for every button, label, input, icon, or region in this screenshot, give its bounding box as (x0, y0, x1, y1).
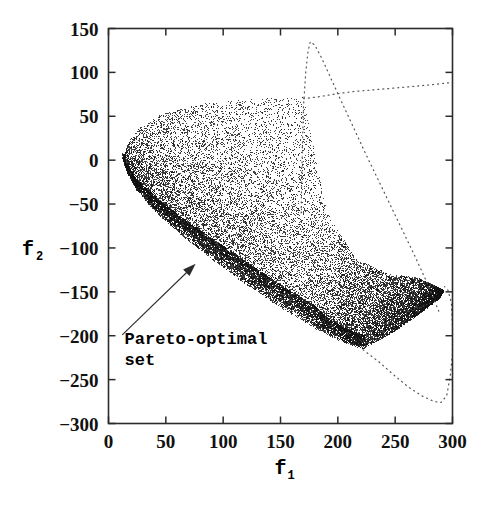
pareto-annotation-line1: Pareto-optimal (125, 330, 268, 349)
y-tick-label: −200 (59, 326, 98, 347)
x-tick-label: 250 (381, 431, 410, 452)
y-tick-label: −150 (59, 282, 98, 303)
x-tick-label: 0 (104, 431, 114, 452)
x-tick-label: 200 (324, 431, 353, 452)
y-tick-label: 150 (70, 19, 99, 40)
svg-text:f: f (275, 457, 287, 480)
y-tick-label: 0 (89, 150, 99, 171)
x-tick-label: 100 (209, 431, 238, 452)
x-tick-label: 50 (156, 431, 175, 452)
x-tick-label: 150 (266, 431, 295, 452)
y-tick-label: −50 (69, 194, 99, 215)
svg-text:f: f (22, 238, 34, 261)
pareto-annotation-line2: set (125, 351, 156, 370)
pareto-front-scatter-figure: 150100500−50−100−150−200−250−300 0501001… (0, 0, 489, 509)
y-tick-label: 50 (80, 106, 99, 127)
x-tick-label: 300 (438, 431, 467, 452)
y-tick-label: −100 (59, 238, 98, 259)
svg-text:2: 2 (36, 250, 43, 264)
y-tick-label: 100 (70, 62, 99, 83)
y-tick-label: −250 (59, 370, 98, 391)
y-tick-label: −300 (59, 414, 98, 435)
svg-text:1: 1 (288, 469, 295, 483)
